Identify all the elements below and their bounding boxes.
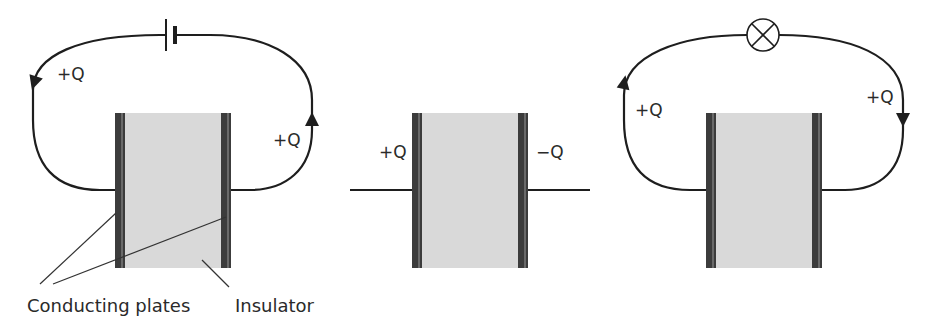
leader-line: [40, 213, 116, 284]
discharge-label-left: +Q: [635, 102, 663, 119]
left-plate: [412, 113, 422, 268]
insulator: [125, 113, 221, 268]
left-plate-highlight: [418, 113, 420, 268]
left-plate: [115, 113, 125, 268]
charged-capacitor: [350, 113, 590, 268]
arrow-up-icon: [305, 112, 319, 126]
caption-conducting-plates: Conducting plates: [27, 297, 190, 315]
insulator: [422, 113, 518, 268]
charge-label-left: +Q: [57, 66, 85, 83]
lamp-icon: [747, 19, 779, 51]
arrow-down-icon: [896, 113, 910, 127]
right-plate-highlight: [818, 113, 820, 268]
capacitor-diagram: [0, 0, 929, 327]
discharging-circuit: [617, 19, 910, 268]
right-plate: [518, 113, 528, 268]
right-plate-highlight: [227, 113, 229, 268]
caption-insulator: Insulator: [235, 297, 314, 315]
battery-icon: [166, 19, 175, 51]
right-plate-highlight: [524, 113, 526, 268]
discharge-label-right: +Q: [866, 89, 894, 106]
plate-charge-positive: +Q: [379, 144, 407, 161]
insulator: [716, 113, 812, 268]
plate-charge-negative: −Q: [536, 144, 564, 161]
right-plate: [221, 113, 231, 268]
right-plate: [812, 113, 822, 268]
left-plate-highlight: [712, 113, 714, 268]
charging-circuit: [25, 19, 319, 287]
charge-label-right: +Q: [273, 132, 301, 149]
left-plate-highlight: [121, 113, 123, 268]
left-plate: [706, 113, 716, 268]
arrow-up-icon: [617, 74, 633, 90]
